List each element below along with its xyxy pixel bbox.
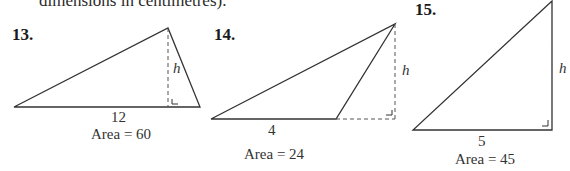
problem-15-area-label: Area = 45	[455, 151, 515, 168]
problem-13-area-label: Area = 60	[91, 126, 151, 143]
problem-15-number: 15.	[415, 0, 436, 20]
right-angle-mark-14	[386, 110, 392, 115]
problem-15-base-label: 5	[478, 133, 486, 150]
triangle-14	[211, 24, 395, 119]
problem-14-base-label: 4	[268, 122, 276, 139]
problem-14-height-label: h	[402, 62, 410, 79]
right-angle-mark-13	[172, 99, 178, 104]
problem-13-number: 13.	[12, 25, 33, 45]
problem-15-height-label: h	[559, 60, 567, 77]
problem-13-base-label: 12	[111, 109, 126, 126]
problem-14-number: 14.	[214, 25, 235, 45]
right-angle-mark-15	[542, 120, 548, 126]
problem-14-area-label: Area = 24	[244, 146, 304, 163]
triangle-15	[413, 1, 552, 130]
problem-13-height-label: h	[173, 60, 181, 77]
